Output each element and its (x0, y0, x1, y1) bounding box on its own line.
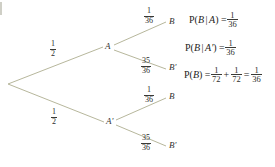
fraction-one-half-bottom: 1 2 (51, 108, 57, 126)
node-A: A (105, 42, 111, 51)
eq1-close: ) = (215, 14, 226, 25)
eq3-lhs-p: P( (184, 69, 193, 80)
branch-A-to-B (114, 22, 166, 45)
eq3-close: ) = (199, 69, 210, 80)
node-B-bottom: B (169, 92, 175, 101)
fraction-one-thirtysixth-top: 1 36 (144, 7, 154, 25)
fraction-one-thirtysixth-bottom: 1 36 (144, 86, 154, 104)
node-A-not: A' (106, 117, 113, 126)
eq3-plus-operator: + (222, 69, 231, 80)
branch-label-Anot-to-B: 1 36 (144, 86, 154, 104)
node-B-not-top: B' (169, 63, 176, 72)
node-B-top: B (169, 17, 175, 26)
eq1-result-fraction: 1 36 (227, 11, 238, 30)
eq3-term1-fraction: 1 72 (211, 66, 222, 85)
eq2-lhs-p: P( (185, 42, 194, 53)
equation-total-probability-B: P(B) = 1 72 + 1 72 = 1 36 (184, 66, 262, 85)
branch-A-to-Bnot (114, 50, 166, 69)
branch-label-A-to-B: 1 36 (144, 7, 154, 25)
eq1-lhs-p: P( (189, 14, 198, 25)
fraction-one-half-top: 1 2 (50, 40, 56, 58)
eq3-equals-operator: = (242, 69, 251, 80)
eq2-close: ) = (213, 42, 224, 53)
branch-label-Anot-to-Bnot: 35 36 (141, 134, 151, 152)
fraction-thirtyfive-thirtysixths-top: 35 36 (141, 57, 151, 75)
eq3-result-fraction: 1 36 (251, 66, 262, 85)
equation-conditional-B-given-A: P(B|A) = 1 36 (189, 11, 238, 30)
node-B-not-bottom: B' (169, 141, 176, 150)
equation-conditional-B-given-A-not: P(B|A') = 1 36 (185, 39, 236, 58)
branch-label-root-to-Anot: 1 2 (51, 108, 57, 126)
eq2-result-fraction: 1 36 (225, 39, 236, 58)
eq3-term2-fraction: 1 72 (231, 66, 242, 85)
branch-Anot-to-B (116, 98, 166, 120)
branch-label-root-to-A: 1 2 (50, 40, 56, 58)
fraction-thirtyfive-thirtysixths-bottom: 35 36 (141, 134, 151, 152)
probability-tree-diagram: A A' B B' B B' 1 2 1 2 1 36 35 36 1 36 (0, 0, 275, 167)
branch-label-A-to-Bnot: 35 36 (141, 57, 151, 75)
